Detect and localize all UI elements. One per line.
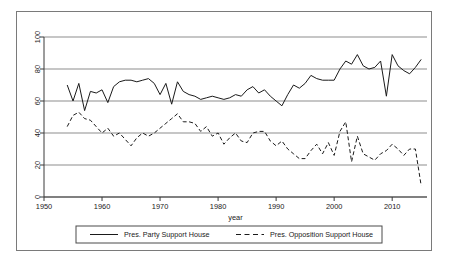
legend-label-1: Pres. Party Support House xyxy=(124,230,210,239)
y-tick-label: 40 xyxy=(33,129,42,137)
x-tick-label: 1970 xyxy=(152,202,168,211)
legend: Pres. Party Support HousePres. Oppositio… xyxy=(76,226,382,243)
x-tick-label: 1950 xyxy=(36,202,52,211)
x-tick-label: 1960 xyxy=(94,202,110,211)
y-tick-label: 100 xyxy=(33,31,42,43)
x-tick-label: 2010 xyxy=(384,202,400,211)
x-tick-label: 1980 xyxy=(210,202,226,211)
y-tick-label: 80 xyxy=(33,65,42,73)
series-line-1 xyxy=(67,55,421,111)
y-tick-label: 60 xyxy=(33,97,42,105)
grid-lines xyxy=(44,37,427,197)
series-line-2 xyxy=(67,112,421,186)
legend-label-2: Pres. Opposition Support House xyxy=(270,230,373,239)
line-chart: 0204060801001950196019701980199020002010… xyxy=(0,0,451,262)
y-tick-label: 20 xyxy=(33,161,42,169)
data-series-group xyxy=(67,55,421,186)
x-tick-label: 2000 xyxy=(326,202,342,211)
figure-container: 0204060801001950196019701980199020002010… xyxy=(0,0,451,262)
axes: 0204060801001950196019701980199020002010… xyxy=(33,31,428,222)
x-tick-label: 1990 xyxy=(268,202,284,211)
x-axis-title: year xyxy=(228,213,243,222)
y-tick-label: 0 xyxy=(33,195,42,199)
